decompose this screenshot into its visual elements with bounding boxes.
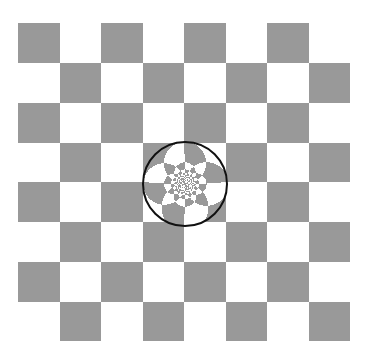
inversion-circle — [143, 142, 227, 226]
inversion-circle-overlay — [0, 0, 367, 360]
